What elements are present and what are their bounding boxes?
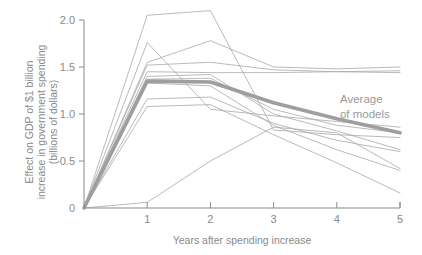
y-tick-label-0: 0: [69, 202, 75, 214]
y-axis-title-line-3: (billions of dollars): [47, 80, 59, 165]
x-axis-title: Years after spending increase: [173, 234, 312, 246]
y-tick-label-3: 1.5: [60, 61, 75, 73]
series-line-model-11: [84, 127, 400, 208]
x-tick-label-5: 5: [397, 213, 403, 225]
annotation-average-of-models-line2: of models: [340, 108, 390, 120]
series-line-model-2: [84, 43, 400, 208]
y-tick-label-4: 2.0: [60, 14, 75, 26]
y-axis-title-line-2: increase in government spending: [35, 45, 47, 200]
annotation-average-of-models-line1: Average: [340, 93, 383, 105]
y-tick-label-1: 0.5: [60, 155, 75, 167]
chart-container: 00.51.01.52.012345 Years after spending …: [0, 0, 422, 255]
y-axis-title-line-1: Effect on GDP of $1 billion: [23, 60, 35, 183]
y-tick-label-2: 1.0: [60, 108, 75, 120]
line-chart: 00.51.01.52.012345 Years after spending …: [0, 0, 422, 255]
x-tick-label-1: 1: [144, 213, 150, 225]
x-tick-label-2: 2: [207, 213, 213, 225]
x-tick-label-4: 4: [334, 213, 340, 225]
x-tick-label-3: 3: [271, 213, 277, 225]
series-line-model-10: [84, 105, 400, 208]
